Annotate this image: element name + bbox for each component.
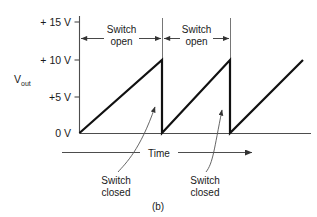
switch-closed-label-1-line2: closed	[102, 187, 131, 198]
y-label-0v: 0 V	[55, 127, 71, 139]
y-label-10v: + 10 V	[40, 54, 71, 66]
switch-closed-label-2-line2: closed	[191, 187, 220, 198]
sawtooth-waveform	[80, 60, 304, 133]
x-axis-title: Time	[148, 148, 170, 159]
switch-open-label-1-line2: open	[110, 36, 132, 47]
switch-closed-label-1-line1: Switch	[101, 175, 130, 186]
switch-open-label-1-line1: Switch	[107, 24, 136, 35]
switch-closed-leader-1	[118, 107, 155, 172]
y-axis-title-subscript: out	[21, 80, 31, 87]
figure-container: + 15 V + 10 V +5 V 0 V V out Switch open…	[0, 0, 317, 217]
waveform-figure: + 15 V + 10 V +5 V 0 V V out Switch open…	[0, 0, 317, 217]
switch-closed-label-2-line1: Switch	[190, 175, 219, 186]
y-label-5v: +5 V	[49, 91, 71, 103]
switch-open-label-2-line2: open	[185, 36, 207, 47]
y-label-15v: + 15 V	[40, 16, 71, 28]
figure-caption: (b)	[152, 201, 164, 212]
switch-closed-leader-2	[206, 110, 222, 172]
y-axis-title: V	[14, 73, 21, 85]
switch-open-label-2-line1: Switch	[182, 24, 211, 35]
